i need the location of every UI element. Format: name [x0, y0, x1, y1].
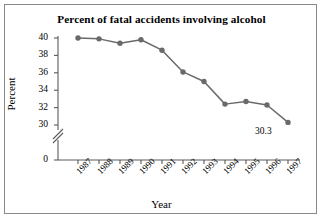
y-axis-tick-label: 40: [26, 32, 48, 42]
chart-surface: Percent of fatal accidents involving alc…: [0, 0, 323, 220]
axis-lines: [58, 36, 300, 160]
data-point-marker: [264, 102, 269, 107]
y-axis-tick-label: 30: [26, 119, 48, 129]
data-point-marker: [96, 36, 101, 41]
data-point-markers: [75, 35, 290, 125]
y-axis-tick-label: 34: [26, 84, 48, 94]
figure-root: Percent of fatal accidents involving alc…: [0, 0, 323, 220]
data-point-value-label: 30.3: [255, 126, 272, 136]
y-axis-tick-label: 36: [26, 67, 48, 77]
data-point-marker: [117, 41, 122, 46]
data-point-marker: [285, 120, 290, 125]
data-series-line: [78, 38, 288, 122]
data-point-marker: [201, 79, 206, 84]
data-point-marker: [222, 101, 227, 106]
plot-area: [0, 0, 323, 220]
data-point-marker: [159, 47, 164, 52]
data-point-marker: [180, 69, 185, 74]
data-point-marker: [75, 35, 80, 40]
data-point-marker: [243, 99, 248, 104]
y-axis-tick-label: 0: [26, 154, 48, 164]
series-line: [78, 38, 288, 122]
data-point-marker: [138, 37, 143, 42]
y-axis-tick-label: 32: [26, 102, 48, 112]
y-axis-tick-label: 38: [26, 49, 48, 59]
